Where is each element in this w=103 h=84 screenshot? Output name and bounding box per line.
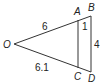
length-label-BD: 4 <box>94 39 100 50</box>
point-label-A: A <box>73 6 81 17</box>
similar-triangles-diagram: O A B C D 6 6.1 1 4 <box>0 0 103 84</box>
length-label-OC: 6.1 <box>35 62 49 73</box>
point-label-B: B <box>88 2 95 13</box>
point-label-C: C <box>74 71 82 82</box>
segment-OD <box>14 44 91 72</box>
point-label-D: D <box>88 73 95 84</box>
length-label-AB: 1 <box>82 21 88 32</box>
length-label-OA: 6 <box>42 21 48 32</box>
point-label-O: O <box>3 39 11 50</box>
segment-OB <box>14 16 91 44</box>
